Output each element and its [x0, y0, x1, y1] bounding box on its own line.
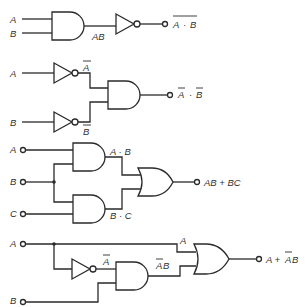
output-label-dot: · [183, 19, 186, 30]
inversion-bubble-icon [72, 70, 78, 76]
junction-dot [52, 180, 56, 184]
inversion-bubble-icon [134, 21, 140, 27]
circuits-svg: A B AB A · B A B A B A · [0, 0, 308, 307]
output-label-b: B [292, 254, 299, 265]
input-label-b: B [10, 28, 17, 39]
not-gate [116, 14, 134, 34]
or-gate [138, 168, 173, 196]
input-label-b: B [10, 117, 17, 128]
wire [54, 164, 73, 202]
input-label-a: A [9, 68, 16, 79]
intermediate-label-abar: A [82, 62, 89, 73]
input-terminal-icon [21, 180, 26, 185]
input-terminal-icon [21, 300, 26, 305]
intermediate-label-abar-b-b: B [163, 260, 170, 271]
circuit-and-or: A B C A · B B · C AB + BC [9, 143, 241, 223]
intermediate-label-abar: A [102, 256, 109, 267]
and-gate [116, 262, 148, 290]
wire [26, 283, 116, 302]
and-gate [108, 81, 140, 109]
wire [78, 73, 108, 88]
output-terminal-icon [257, 257, 262, 262]
input-label-a: A [9, 144, 16, 155]
and-gate-ab [73, 143, 105, 171]
input-terminal-icon [21, 148, 26, 153]
input-label-a: A [9, 14, 16, 25]
intermediate-label-ab: A · B [109, 146, 131, 157]
wire [26, 244, 196, 252]
or-gate [194, 244, 229, 274]
input-terminal-icon [21, 242, 26, 247]
input-label-b: B [10, 295, 17, 306]
wire [105, 157, 142, 175]
and-gate [52, 12, 84, 40]
intermediate-label-bc: B · C [110, 210, 132, 221]
intermediate-label-a: A [179, 235, 186, 246]
circuit-and-of-inverted: A B A B A · B [9, 61, 203, 137]
output-label: AB + BC [203, 177, 241, 188]
wire [54, 244, 72, 269]
input-terminal-icon [21, 212, 26, 217]
circuit-nand: A B AB A · B [9, 12, 197, 42]
output-label-dot: · [189, 89, 192, 100]
circuit-absorption: A B A A A B A + A B [9, 235, 299, 306]
output-label-b: B [190, 19, 197, 30]
logic-circuits-diagram: A B AB A · B A B A B A · [0, 0, 308, 307]
and-gate-bc [73, 195, 105, 223]
output-terminal-icon [195, 180, 200, 185]
output-terminal-icon [168, 93, 173, 98]
not-gate-a [54, 63, 72, 83]
input-label-c: C [10, 208, 17, 219]
output-label-a: A [172, 19, 179, 30]
intermediate-label-ab: AB [91, 31, 105, 42]
intermediate-label-abar-b-a: A [155, 260, 162, 271]
wire [105, 189, 142, 209]
input-label-a: A [9, 238, 16, 249]
inversion-bubble-icon [90, 266, 96, 272]
inversion-bubble-icon [72, 119, 78, 125]
output-label-prefix: A + [265, 254, 281, 265]
not-gate-b [54, 112, 72, 132]
output-label-a: A [177, 89, 184, 100]
not-gate [72, 259, 90, 279]
wire [78, 102, 108, 122]
output-label-abar: A [284, 254, 291, 265]
input-label-b: B [10, 176, 17, 187]
intermediate-label-bbar: B [83, 126, 90, 137]
output-terminal-icon [163, 22, 168, 27]
output-label-b: B [196, 89, 203, 100]
